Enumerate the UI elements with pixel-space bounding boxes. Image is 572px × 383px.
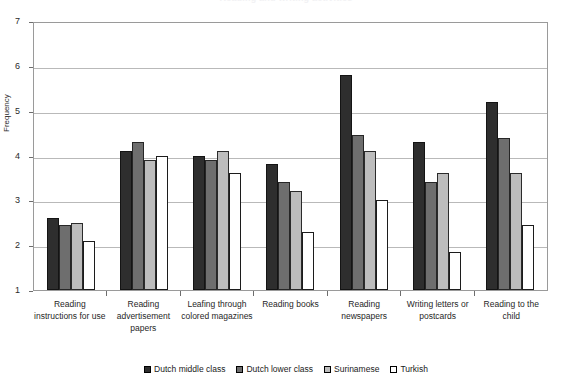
bar	[205, 160, 217, 290]
bar	[132, 142, 144, 290]
y-axis-tickmark	[29, 201, 33, 202]
legend-swatch-icon	[390, 366, 397, 373]
bar	[376, 200, 388, 290]
bar-group	[181, 23, 254, 290]
legend-swatch-icon	[236, 366, 243, 373]
bar-group	[34, 23, 107, 290]
y-axis-tick-label: 3	[0, 196, 20, 205]
y-axis-tickmark	[29, 246, 33, 247]
x-axis-labels: Reading instructions for useReading adve…	[33, 298, 548, 344]
x-axis-tickmark	[180, 291, 254, 296]
bar	[59, 225, 71, 290]
bar	[71, 223, 83, 290]
bar-group	[474, 23, 547, 290]
legend-label: Dutch lower class	[246, 364, 313, 374]
x-axis-category-label: Reading newspapers	[327, 298, 401, 344]
y-axis-tickmark	[29, 112, 33, 113]
bar	[510, 173, 522, 290]
bar	[340, 75, 352, 290]
legend-label: Surinamese	[334, 364, 379, 374]
bar-groups	[34, 23, 547, 290]
legend-swatch-icon	[324, 366, 331, 373]
bar-group	[400, 23, 473, 290]
bar	[229, 173, 241, 290]
plot-area	[33, 22, 548, 291]
y-axis-tick-label: 5	[0, 107, 20, 116]
x-axis-tickmark	[401, 291, 475, 296]
bar	[437, 173, 449, 290]
y-axis-tick-label: 6	[0, 62, 20, 71]
bar	[217, 151, 229, 290]
bar-chart: Reading and writing activities Frequency…	[0, 0, 572, 383]
bar	[120, 151, 132, 290]
bar	[449, 252, 461, 290]
legend-swatch-icon	[144, 366, 151, 373]
x-axis-tickmark	[33, 291, 107, 296]
bar	[83, 241, 95, 290]
legend-item[interactable]: Dutch middle class	[144, 364, 225, 374]
y-axis-tickmark	[29, 67, 33, 68]
bar	[47, 218, 59, 290]
bar-group	[254, 23, 327, 290]
bar-group	[327, 23, 400, 290]
x-axis-tickmark	[107, 291, 181, 296]
x-axis-category-label: Reading books	[254, 298, 328, 344]
x-axis-tickmark	[254, 291, 328, 296]
bar	[486, 102, 498, 290]
y-axis-tickmark	[29, 157, 33, 158]
x-axis-category-label: Writing letters or postcards	[401, 298, 475, 344]
legend-item[interactable]: Surinamese	[324, 364, 379, 374]
bar	[364, 151, 376, 290]
bar	[266, 164, 278, 290]
bar	[144, 160, 156, 290]
bar	[522, 225, 534, 290]
y-axis-tickmark	[29, 22, 33, 23]
legend-item[interactable]: Turkish	[390, 364, 428, 374]
legend-item[interactable]: Dutch lower class	[236, 364, 313, 374]
bar	[498, 138, 510, 290]
x-axis-category-label: Reading instructions for use	[33, 298, 107, 344]
bar	[352, 135, 364, 290]
bar	[193, 156, 205, 291]
y-axis-tick-label: 4	[0, 152, 20, 161]
x-axis-category-label: Reading advertisement papers	[107, 298, 181, 344]
bar	[302, 232, 314, 290]
y-axis-tick-label: 7	[0, 17, 20, 26]
bar	[290, 191, 302, 290]
legend-label: Turkish	[400, 364, 428, 374]
x-axis-tickmark	[474, 291, 548, 296]
bar	[278, 182, 290, 290]
chart-title: Reading and writing activities	[0, 0, 572, 5]
chart-legend: Dutch middle classDutch lower classSurin…	[0, 362, 572, 376]
x-axis-category-label: Reading to the child	[474, 298, 548, 344]
x-axis-tickmarks	[33, 291, 548, 296]
x-axis-tickmark	[327, 291, 401, 296]
x-axis-category-label: Leafing through colored magazines	[180, 298, 254, 344]
y-axis-tick-label: 1	[0, 286, 20, 295]
bar	[425, 182, 437, 290]
bar-group	[107, 23, 180, 290]
legend-label: Dutch middle class	[154, 364, 225, 374]
bar	[156, 156, 168, 291]
bar	[413, 142, 425, 290]
y-axis-tick-label: 2	[0, 241, 20, 250]
